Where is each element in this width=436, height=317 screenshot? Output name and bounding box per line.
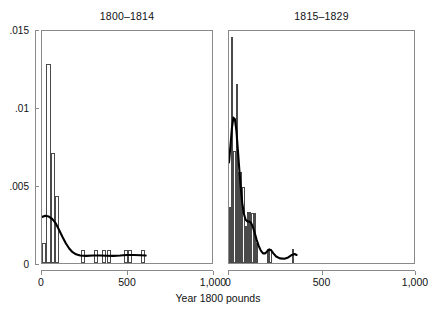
x-axis-tick	[228, 271, 229, 275]
x-axis-tick-label: 1,000	[402, 276, 428, 288]
kernel-density-line	[229, 118, 297, 259]
plot-area-left	[41, 30, 213, 264]
density-curve-left	[42, 31, 212, 263]
x-axis-tick-label: 500	[313, 276, 331, 288]
figure-histogram-density: 1800–1814 1815–1829 05001,00005001,0000.…	[0, 0, 436, 317]
y-axis-tick	[35, 30, 39, 31]
x-axis-tick	[127, 271, 128, 275]
y-axis-tick-label: .01	[0, 103, 29, 114]
y-axis-tick	[35, 186, 39, 187]
x-axis-title: Year 1800 pounds	[0, 292, 436, 304]
x-axis-tick	[322, 271, 323, 275]
x-axis-tick	[213, 271, 214, 275]
panel-title-left: 1800–1814	[41, 10, 213, 22]
x-axis-tick-label: 1,000	[200, 276, 226, 288]
x-axis-tick-label: 500	[118, 276, 136, 288]
panel-title-right: 1815–1829	[228, 10, 415, 22]
density-curve-right	[229, 31, 414, 263]
x-axis-tick-label: 0	[38, 276, 44, 288]
y-axis-tick	[35, 108, 39, 109]
y-axis-tick-label: .015	[0, 25, 29, 36]
y-axis-tick-label: 0	[0, 259, 29, 270]
plot-area-right	[228, 30, 415, 264]
x-axis-tick	[41, 271, 42, 275]
y-axis-tick	[35, 264, 39, 265]
y-axis-line	[35, 30, 36, 264]
x-axis-tick-label: 0	[225, 276, 231, 288]
y-axis-tick-label: .005	[0, 181, 29, 192]
x-axis-tick	[415, 271, 416, 275]
kernel-density-line	[42, 216, 146, 256]
